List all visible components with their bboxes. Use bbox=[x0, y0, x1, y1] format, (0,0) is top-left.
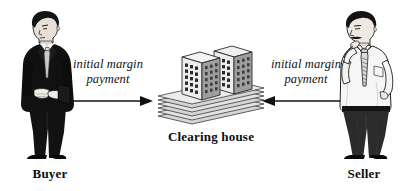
flow-label-buyer: initial margin payment bbox=[60, 57, 156, 87]
clearing-house-figure bbox=[152, 38, 270, 126]
seller-figure bbox=[330, 8, 406, 160]
clearing-house-flow-diagram: Buyer initial margin payment bbox=[0, 0, 413, 191]
flow-label-buyer-line2: payment bbox=[60, 72, 156, 87]
buyer-label: Buyer bbox=[6, 166, 94, 182]
clearing-house-label: Clearing house bbox=[146, 129, 276, 145]
flow-label-buyer-line1: initial margin bbox=[73, 57, 143, 71]
seller-label: Seller bbox=[320, 166, 408, 182]
arrow-buyer-to-clearinghouse bbox=[70, 93, 156, 113]
